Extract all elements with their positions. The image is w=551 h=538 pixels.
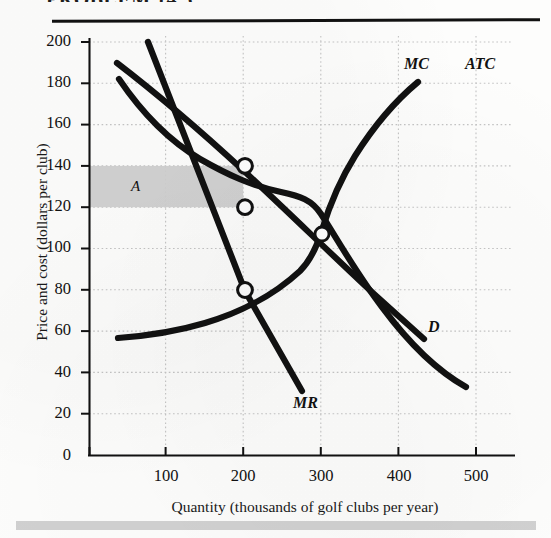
region-label-a: A: [131, 178, 140, 195]
marker-price-point: [238, 200, 253, 215]
curve-atc: [119, 79, 466, 387]
x-tick-500: 500: [451, 466, 501, 486]
curve-label-mc: MC: [404, 55, 429, 73]
y-tick-20: 20: [29, 403, 71, 423]
y-tick-180: 180: [29, 72, 71, 92]
figure-container: PROBLEM 14.3: [0, 0, 551, 538]
y-tick-200: 200: [29, 31, 71, 51]
curve-label-d: D: [428, 318, 440, 336]
x-tick-200: 200: [218, 466, 268, 486]
y-axis-title: Price and cost (dollars per club): [33, 92, 51, 392]
x-tick-100: 100: [141, 466, 191, 486]
marker-atc-point: [238, 159, 253, 174]
curve-label-mr: MR: [293, 394, 318, 412]
y-tick-0: 0: [29, 445, 71, 465]
curve-label-atc: ATC: [465, 55, 495, 73]
x-tick-300: 300: [296, 466, 346, 486]
curve-mr: [148, 42, 302, 391]
x-tick-400: 400: [374, 466, 424, 486]
marker-mc-mr-intersection: [238, 283, 253, 298]
bottom-gray-band: [16, 521, 536, 530]
marker-min-atc-intersection: [315, 227, 329, 241]
chart-canvas: [0, 0, 551, 538]
x-axis-title: Quantity (thousands of golf clubs per ye…: [90, 498, 520, 516]
